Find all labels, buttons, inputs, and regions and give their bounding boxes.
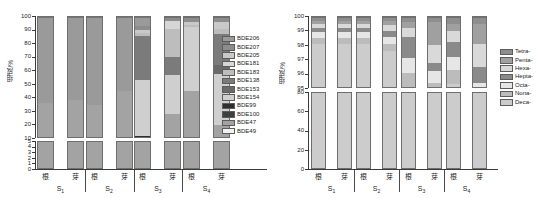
left-lower-y-tick xyxy=(32,141,35,142)
bar-segment-Deca- xyxy=(357,93,370,169)
x-tick-label: 根 xyxy=(135,173,151,181)
left-legend: BDE206BDE207BDE205BDE181BDE183BDE138BDE1… xyxy=(222,35,272,136)
bar-upper xyxy=(183,16,200,138)
left-legend-swatch xyxy=(222,103,235,110)
bar-segment-BDE206 xyxy=(87,17,102,105)
right-upper-y-tick-label: 99 xyxy=(282,27,304,33)
left-legend-item[interactable]: BDE154 xyxy=(222,94,272,102)
right-legend-swatch xyxy=(500,91,513,98)
x-tick-label: 根 xyxy=(86,173,102,181)
bar-lower xyxy=(183,141,200,169)
left-legend-swatch xyxy=(222,52,235,59)
group-label: S4 xyxy=(457,185,477,195)
bar-segment-BDE47 xyxy=(165,113,180,138)
right-legend-item[interactable]: Hepta- xyxy=(500,73,538,81)
left-legend-label: BDE154 xyxy=(237,94,259,102)
bar-upper xyxy=(337,16,352,88)
bar-upper xyxy=(67,16,84,138)
right-chart-panel: 组成/% 1009998979695 806040200 根芽根芽根芽根芽 S1… xyxy=(272,0,538,198)
group-label: S3 xyxy=(148,185,168,195)
bar-upper xyxy=(401,16,416,88)
left-legend-item[interactable]: BDE181 xyxy=(222,60,272,68)
left-upper-y-tick-label: 50 xyxy=(9,81,31,87)
x-tick-label: 芽 xyxy=(165,173,181,181)
bar-segment-Deca- xyxy=(473,93,486,169)
bar-segment-Penta- xyxy=(447,23,460,31)
bar-lower xyxy=(67,141,84,169)
x-tick-label: 芽 xyxy=(214,173,230,181)
bar-segment-BDE206 xyxy=(117,17,132,91)
left-legend-swatch xyxy=(222,78,235,85)
x-tick-label: 根 xyxy=(37,173,53,181)
left-legend-item[interactable]: BDE206 xyxy=(222,35,272,43)
group-separator xyxy=(444,170,445,192)
bar-segment-BDE154 xyxy=(184,26,199,91)
group-separator xyxy=(134,170,135,192)
left-legend-item[interactable]: BDE207 xyxy=(222,43,272,51)
bar-segment-BDE47 xyxy=(38,142,53,169)
group-label: S2 xyxy=(99,185,119,195)
right-legend-label: Octa- xyxy=(515,82,530,90)
right-legend-swatch xyxy=(500,49,513,56)
left-upper-y-tick-label: 40 xyxy=(9,94,31,100)
right-legend-label: Hepta- xyxy=(515,73,533,81)
right-legend-item[interactable]: Tetra- xyxy=(500,48,538,56)
bar-segment-Hepta- xyxy=(402,36,415,59)
left-legend-item[interactable]: BDE99 xyxy=(222,102,272,110)
group-separator xyxy=(399,170,400,192)
right-legend-item[interactable]: Hexa- xyxy=(500,65,538,73)
right-legend-item[interactable]: Octa- xyxy=(500,82,538,90)
x-tick-label: 根 xyxy=(311,173,327,181)
right-upper-y-tick xyxy=(305,59,308,60)
bar-segment-Hexa- xyxy=(383,24,396,31)
left-legend-item[interactable]: BDE138 xyxy=(222,77,272,85)
right-legend-item[interactable]: Penta- xyxy=(500,56,538,64)
bar-lower xyxy=(86,141,103,169)
bar-segment-BDE154 xyxy=(135,79,150,136)
left-legend-label: BDE47 xyxy=(237,119,256,127)
left-legend-item[interactable]: BDE205 xyxy=(222,52,272,60)
bar-upper xyxy=(472,16,487,88)
left-legend-swatch xyxy=(222,86,235,93)
left-legend-label: BDE181 xyxy=(237,60,259,68)
left-upper-y-tick xyxy=(32,57,35,58)
bar-upper xyxy=(134,16,151,138)
bar-lower xyxy=(382,92,397,169)
bar-segment-BDE181 xyxy=(165,20,180,29)
right-legend-label: Deca- xyxy=(515,99,531,107)
group-separator xyxy=(354,170,355,192)
left-upper-y-tick-label: 60 xyxy=(9,67,31,73)
left-legend-item[interactable]: BDE183 xyxy=(222,69,272,77)
right-upper-y-tick xyxy=(305,88,308,89)
bar-segment-Tetra- xyxy=(402,17,415,22)
right-legend-item[interactable]: Deca- xyxy=(500,98,538,106)
right-legend-item[interactable]: Nona- xyxy=(500,90,538,98)
right-legend-swatch xyxy=(500,99,513,106)
left-upper-y-tick-label: 100 xyxy=(9,13,31,19)
left-legend-item[interactable]: BDE100 xyxy=(222,111,272,119)
bar-segment-BDE47 xyxy=(87,104,102,138)
left-upper-y-tick-label: 30 xyxy=(9,108,31,114)
bar-segment-Hepta- xyxy=(383,30,396,37)
left-legend-label: BDE138 xyxy=(237,77,259,85)
left-legend-item[interactable]: BDE47 xyxy=(222,119,272,127)
bar-segment-Penta- xyxy=(428,21,441,45)
left-lower-y-tick xyxy=(32,158,35,159)
bar-segment-BDE47 xyxy=(165,142,180,169)
left-upper-y-tick-label: 70 xyxy=(9,53,31,59)
bar-segment-BDE47 xyxy=(68,99,83,138)
left-legend-swatch xyxy=(222,120,235,127)
bar-segment-Hepta- xyxy=(447,41,460,56)
bar-segment-Deca- xyxy=(357,43,370,88)
bar-segment-Nona- xyxy=(338,37,351,44)
bar-lower xyxy=(337,92,352,169)
left-legend-label: BDE49 xyxy=(237,128,256,136)
right-upper-y-tick xyxy=(305,16,308,17)
bar-lower xyxy=(116,141,133,169)
left-legend-item[interactable]: BDE153 xyxy=(222,85,272,93)
left-upper-y-tick xyxy=(32,124,35,125)
right-upper-y-tick xyxy=(305,74,308,75)
bar-lower xyxy=(134,141,151,169)
left-legend-item[interactable]: BDE49 xyxy=(222,127,272,135)
group-label: S4 xyxy=(197,185,217,195)
